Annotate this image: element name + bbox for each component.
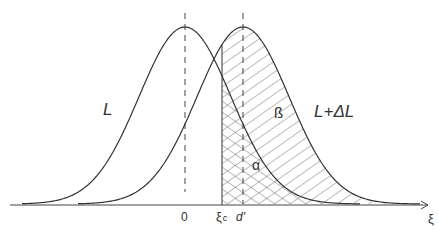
label-curve-L: L xyxy=(103,100,112,119)
tick-label-d-prime: d' xyxy=(236,210,246,224)
label-curve-LdL: L+ΔL xyxy=(314,102,354,121)
signal-detection-diagram: L L+ΔL ß α 0 ξc d' ξ xyxy=(0,0,439,231)
label-alpha: α xyxy=(252,157,260,173)
tick-label-xic: ξc xyxy=(216,209,228,224)
tick-label-zero: 0 xyxy=(181,210,188,224)
label-beta: ß xyxy=(274,104,283,121)
axis-label-xi: ξ xyxy=(428,211,434,226)
